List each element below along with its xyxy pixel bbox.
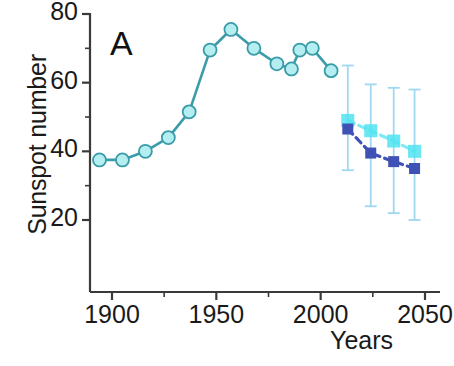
x-tick-label: 2000: [281, 300, 361, 329]
axes: [82, 13, 440, 300]
y-tick-label: 40: [50, 134, 78, 163]
series-line: [348, 120, 415, 151]
data-point-square: [342, 124, 353, 135]
data-point-circle: [139, 145, 152, 158]
data-point-circle: [93, 153, 106, 166]
data-point-circle: [247, 42, 260, 55]
data-point-circle: [285, 62, 298, 75]
error-bars: [342, 66, 421, 221]
data-point-square: [364, 124, 377, 137]
x-tick-label: 1950: [176, 300, 256, 329]
data-point-circle: [224, 23, 237, 36]
data-point-circle: [325, 64, 338, 77]
x-tick-label: 1900: [72, 300, 152, 329]
data-point-square: [387, 135, 400, 148]
x-axis-label: Years: [330, 326, 393, 355]
y-tick-label: 20: [50, 203, 78, 232]
data-point-square: [388, 156, 399, 167]
series-markers: [93, 23, 421, 174]
data-point-circle: [116, 153, 129, 166]
y-tick-label: 80: [50, 0, 78, 26]
data-point-square: [408, 145, 421, 158]
y-tick-label: 60: [50, 66, 78, 95]
data-point-circle: [293, 44, 306, 57]
x-tick-label: 2050: [385, 300, 454, 329]
sunspot-forecast-chart: A Sunspot number Years 20406080 19001950…: [0, 0, 454, 366]
data-point-square: [365, 148, 376, 159]
y-axis-label: Sunspot number: [23, 20, 52, 270]
data-point-circle: [162, 131, 175, 144]
data-point-circle: [270, 57, 283, 70]
data-point-square: [409, 163, 420, 174]
data-point-circle: [204, 44, 217, 57]
data-point-circle: [306, 42, 319, 55]
data-point-circle: [183, 105, 196, 118]
panel-label-a: A: [110, 24, 133, 63]
